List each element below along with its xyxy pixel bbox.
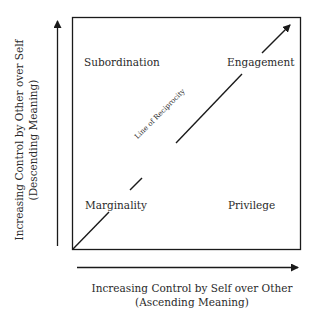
quadrant-label-privilege: Privilege (228, 200, 275, 211)
quadrant-label-subordination: Subordination (84, 57, 160, 68)
y-axis-label-line2: (Descending Meaning) (26, 25, 40, 255)
y-axis-label: Increasing Control by Other over Self (D… (12, 25, 40, 255)
x-axis-label-line1: Increasing Control by Self over Other (77, 281, 307, 295)
y-axis-label-line1: Increasing Control by Other over Self (12, 25, 26, 255)
x-axis-label-line2: (Ascending Meaning) (77, 295, 307, 309)
quadrant-label-marginality: Marginality (85, 200, 147, 211)
quadrant-label-engagement: Engagement (227, 57, 295, 68)
x-axis-label: Increasing Control by Self over Other (A… (77, 281, 307, 309)
diagram-graphics (0, 0, 317, 319)
reciprocity-diagram: Subordination Engagement Marginality Pri… (0, 0, 317, 319)
